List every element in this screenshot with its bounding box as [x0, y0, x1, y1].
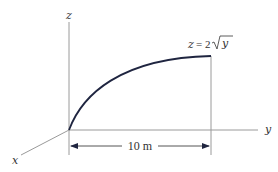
- x-axis-label: x: [12, 154, 19, 167]
- equation-equals: =: [196, 38, 202, 50]
- equation-label: z = 2 y: [187, 36, 233, 51]
- diagram-canvas: 10 m z y x z = 2 y: [0, 0, 278, 172]
- curve: [69, 56, 211, 130]
- dimension-label: 10 m: [128, 139, 153, 153]
- equation-radicand: y: [221, 37, 229, 50]
- z-axis-label: z: [65, 9, 72, 22]
- y-axis-label: y: [264, 123, 272, 136]
- equation-lhs: z: [187, 38, 194, 51]
- x-axis: [21, 130, 69, 155]
- equation-coefficient: 2: [205, 38, 211, 50]
